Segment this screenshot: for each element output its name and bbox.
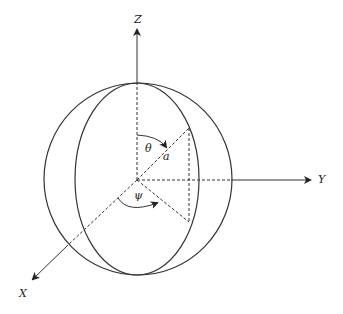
projection-horizontal bbox=[137, 180, 189, 222]
y-axis-label: Y bbox=[318, 174, 325, 185]
diagram-graphics bbox=[0, 0, 343, 314]
sphere-diagram: Z Y X θ a ψ bbox=[0, 0, 343, 314]
theta-label: θ bbox=[145, 143, 152, 154]
x-axis bbox=[33, 245, 68, 279]
x-axis-label: X bbox=[19, 288, 27, 299]
radius-label: a bbox=[163, 151, 170, 162]
psi-label: ψ bbox=[134, 190, 143, 201]
z-axis-label: Z bbox=[134, 14, 142, 25]
